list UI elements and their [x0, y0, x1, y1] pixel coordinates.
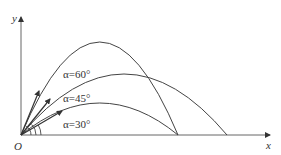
y-axis-label: y: [11, 12, 17, 24]
trajectories: [21, 42, 227, 135]
angle-label-45: α=45°: [63, 92, 90, 104]
angle-arc-30: [38, 125, 41, 135]
velocity-arrow-30: [21, 111, 62, 135]
x-axis-label: x: [265, 139, 271, 151]
angle-label-60: α=60°: [63, 68, 90, 80]
angle-label-30: α=30°: [63, 118, 90, 130]
axes: [21, 17, 270, 135]
trajectory-45: [21, 74, 227, 135]
trajectory-30: [21, 103, 178, 135]
projectile-diagram: y x O α=60° α=45° α=30°: [0, 0, 281, 155]
origin-label: O: [14, 140, 22, 152]
